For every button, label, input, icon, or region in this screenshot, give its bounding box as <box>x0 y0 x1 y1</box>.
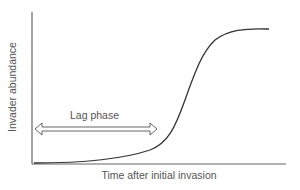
growth-curve <box>34 29 269 163</box>
lag-phase-label: Lag phase <box>70 109 119 121</box>
lag-phase-diagram: Invader abundance Time after initial inv… <box>0 0 300 190</box>
plot-area <box>0 0 300 190</box>
lag-phase-arrow <box>35 123 157 135</box>
x-axis-label: Time after initial invasion <box>32 169 286 181</box>
y-axis-label: Invader abundance <box>6 12 18 162</box>
